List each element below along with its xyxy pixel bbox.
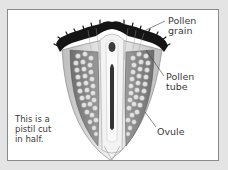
ovule-nucleus (109, 42, 116, 52)
leader-pollen-grain (144, 21, 165, 31)
ovary-cavity (110, 64, 114, 130)
style-canal (100, 34, 124, 160)
label-pollen-tube: Pollen tube (166, 72, 194, 92)
leader-ovule (145, 112, 156, 127)
label-ovule: Ovule (157, 127, 185, 137)
label-pollen-grain: Pollen grain (168, 16, 196, 36)
caption: This is a pistil cut in half. (15, 114, 51, 144)
